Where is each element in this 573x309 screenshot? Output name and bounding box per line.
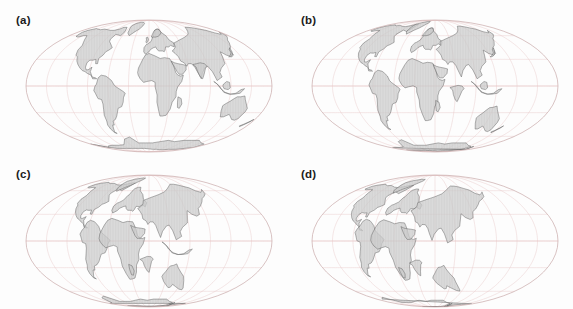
landmasses-b bbox=[358, 21, 503, 151]
map-panel-a bbox=[19, 13, 279, 159]
landmass-borneo bbox=[223, 81, 230, 89]
landmass-antarctica bbox=[91, 137, 205, 150]
landmass-greenland bbox=[117, 178, 146, 191]
panel-label-d: (d) bbox=[301, 169, 316, 181]
landmass-india_block bbox=[409, 260, 422, 276]
landmass-australia bbox=[433, 265, 460, 291]
mollweide-map-b bbox=[305, 13, 565, 159]
graticule-d bbox=[312, 175, 558, 307]
landmasses-c bbox=[76, 178, 206, 307]
landmass-india_block bbox=[140, 256, 153, 272]
landmass-north_america bbox=[76, 27, 127, 78]
map-panel-d bbox=[305, 168, 565, 309]
landmass-madagascar bbox=[436, 100, 441, 111]
landmass-antarctica bbox=[392, 140, 473, 152]
landmass-greenland bbox=[128, 22, 145, 35]
graticule-a bbox=[26, 20, 272, 152]
figure-canvas: (a)(b)(c)(d) bbox=[0, 0, 573, 309]
mollweide-map-d bbox=[305, 168, 565, 309]
mollweide-map-a bbox=[19, 13, 279, 159]
landmass-south_america bbox=[369, 70, 400, 129]
mollweide-map-c bbox=[19, 168, 279, 309]
landmass-india_block bbox=[450, 85, 464, 101]
landmass-south_america bbox=[94, 75, 125, 133]
landmass-australia bbox=[220, 96, 247, 120]
landmasses-a bbox=[76, 22, 254, 150]
landmass-africa bbox=[138, 53, 184, 116]
landmass-uk bbox=[146, 37, 149, 43]
panel-label-a: (a) bbox=[16, 15, 31, 27]
map-panel-b bbox=[305, 13, 565, 159]
map-panel-c bbox=[19, 168, 279, 309]
graticule-c bbox=[26, 175, 272, 307]
landmass-new_zealand bbox=[239, 119, 254, 126]
landmass-asia bbox=[138, 184, 205, 240]
landmass-australia bbox=[475, 106, 499, 132]
panel-label-b: (b) bbox=[301, 15, 316, 27]
panel-label-c: (c) bbox=[16, 169, 31, 181]
landmass-madagascar bbox=[177, 97, 181, 109]
landmass-asia bbox=[411, 186, 484, 243]
landmass-se_asia_arc bbox=[162, 242, 192, 255]
landmass-borneo bbox=[480, 81, 488, 89]
landmass-india_block bbox=[193, 63, 207, 79]
landmass-greenland bbox=[393, 179, 425, 193]
